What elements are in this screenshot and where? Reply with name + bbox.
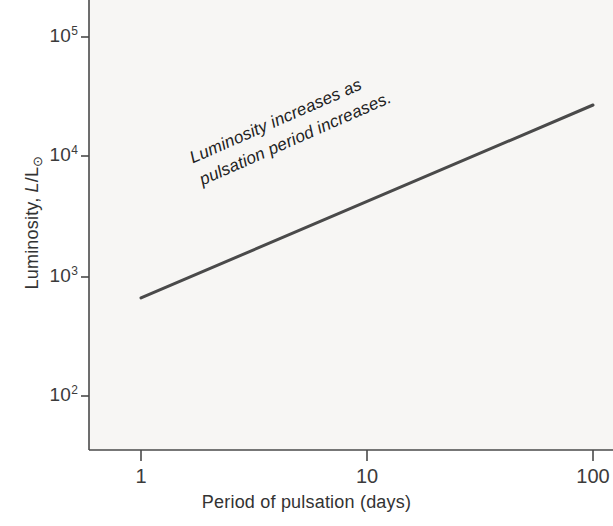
- y-tick-label-1e4: 104: [50, 145, 78, 164]
- period-luminosity-chart: 105 104 103 102 1 10 100 Period of pulsa…: [0, 0, 613, 526]
- x-axis-title: Period of pulsation (days): [0, 492, 613, 513]
- y-axis-title: Luminosity, L/L⊙: [22, 73, 43, 373]
- x-tick-label-10-wrap: 10: [327, 466, 407, 492]
- y-axis-title-prefix: Luminosity,: [22, 192, 42, 289]
- period-luminosity-trend-line: [141, 105, 593, 298]
- y-tick-label-1e3: 103: [50, 266, 78, 285]
- y-tick-label-1e5: 105: [50, 26, 78, 45]
- chart-svg: [0, 0, 613, 526]
- x-axis-ticks: [141, 450, 593, 461]
- y-tick-label-1e2: 102: [50, 385, 78, 404]
- y-axis-title-luminosity-symbol: L: [22, 182, 42, 192]
- x-tick-label-1: 1: [101, 466, 181, 486]
- x-tick-label-100: 100: [553, 466, 613, 486]
- sun-symbol-icon: ⊙: [30, 156, 45, 167]
- y-tick-label-1e2-wrap: 102: [6, 385, 78, 407]
- x-tick-label-100-wrap: 100: [553, 466, 613, 492]
- x-tick-label-10: 10: [327, 466, 407, 486]
- y-tick-label-1e5-wrap: 105: [6, 26, 78, 48]
- y-axis-ticks: [81, 37, 89, 396]
- x-tick-label-1-wrap: 1: [101, 466, 181, 492]
- y-axis-title-slash: /L: [22, 167, 42, 182]
